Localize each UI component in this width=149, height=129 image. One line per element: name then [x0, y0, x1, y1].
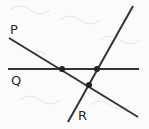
label-p: P [10, 22, 18, 37]
diagram-canvas: P Q R [0, 0, 149, 129]
diagram-svg: P Q R [0, 0, 149, 129]
line-p [9, 38, 138, 117]
label-q: Q [11, 73, 21, 88]
background-pattern [10, 6, 140, 109]
intersection-pq [59, 66, 65, 72]
line-r [68, 6, 133, 122]
label-r: R [78, 108, 87, 123]
intersection-qr [94, 66, 100, 72]
intersection-pr [86, 82, 92, 88]
